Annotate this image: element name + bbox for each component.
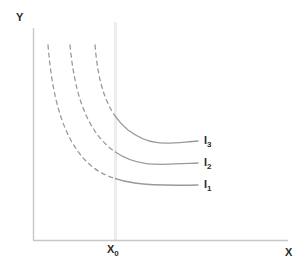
x0-tick-label-subscript: 0 xyxy=(114,249,118,258)
curve-label-i1-subscript: 1 xyxy=(207,184,211,193)
curve-label-i2: I2 xyxy=(204,157,212,171)
curve-label-i3-subscript: 3 xyxy=(207,140,211,149)
curve-i2-solid-segment xyxy=(70,45,198,164)
y-axis-label: Y xyxy=(16,12,23,23)
curve-i2-dashed-segment xyxy=(70,45,198,164)
curve-label-i2-subscript: 2 xyxy=(207,162,211,171)
curve-i3-solid-segment xyxy=(95,45,198,143)
x-axis-label-text: X xyxy=(285,246,292,258)
indifference-curve-figure: Y X X0 I3 I2 I1 xyxy=(0,0,305,269)
curve-label-i3: I3 xyxy=(204,135,212,149)
y-axis-label-text: Y xyxy=(16,11,23,23)
curve-i3-dashed-segment xyxy=(95,45,198,143)
x-axis-label: X xyxy=(285,247,292,258)
plot-canvas xyxy=(0,0,305,269)
curve-label-i1: I1 xyxy=(204,179,212,193)
x0-tick-label: X0 xyxy=(107,244,119,258)
